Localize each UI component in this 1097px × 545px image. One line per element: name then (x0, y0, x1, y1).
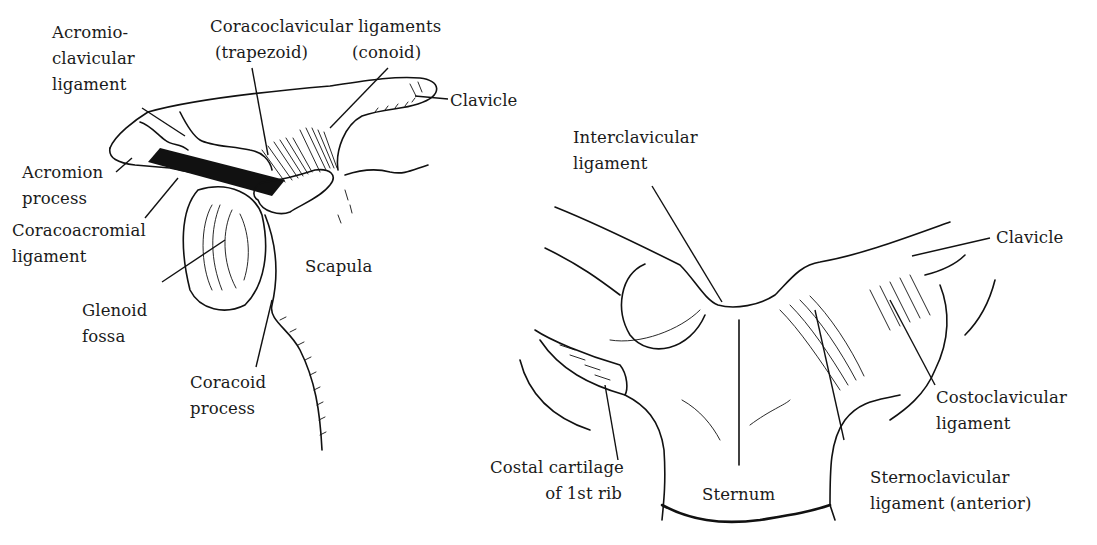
label-interclavicular-ligament: Interclavicular ligament (573, 125, 698, 177)
label-coracoacromial-ligament: Coracoacromial ligament (12, 218, 146, 270)
label-trapezoid: (trapezoid) (215, 40, 308, 66)
shoulder-drawing (110, 68, 448, 450)
label-conoid: (conoid) (352, 40, 421, 66)
label-glenoid-fossa: Glenoid fossa (82, 298, 147, 350)
label-costoclavicular-ligament: Costoclavicular ligament (936, 385, 1067, 437)
label-acromion-process: Acromion process (22, 160, 103, 212)
label-coracoid-process: Coracoid process (190, 370, 266, 422)
label-costal-cartilage: Costal cartilage of 1st rib (490, 455, 622, 507)
anatomy-figure: Acromio- clavicular ligament Coracoclavi… (0, 0, 1097, 545)
label-sternum: Sternum (702, 482, 775, 508)
label-acromioclavicular-ligament: Acromio- clavicular ligament (52, 20, 135, 98)
label-coracoclavicular-ligaments: Coracoclavicular ligaments (210, 14, 441, 40)
label-scapula: Scapula (305, 254, 372, 280)
label-sternoclavicular-ligament: Sternoclavicular ligament (anterior) (870, 465, 1032, 517)
label-clavicle-right: Clavicle (996, 225, 1063, 251)
label-clavicle-left: Clavicle (450, 88, 517, 114)
